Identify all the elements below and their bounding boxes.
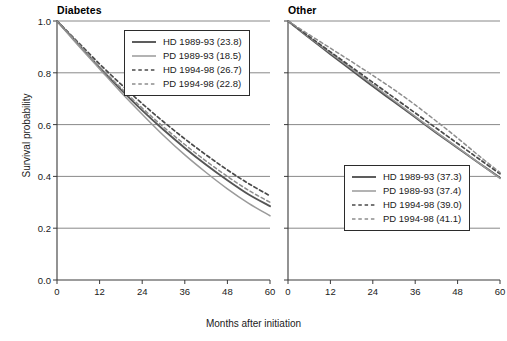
panel-title-diabetes: Diabetes — [57, 4, 102, 16]
x-tick-label: 48 — [222, 286, 233, 297]
legend-label: HD 1994-98 (26.7) — [163, 65, 242, 75]
x-tick-label: 12 — [94, 286, 105, 297]
x-tick-label: 60 — [265, 286, 276, 297]
legend-other: HD 1989-93 (37.3)PD 1989-93 (37.4)HD 199… — [344, 165, 470, 231]
legend-item: PD 1994-98 (22.8) — [131, 77, 242, 91]
legend-item: HD 1989-93 (37.3) — [351, 170, 462, 184]
x-tick-label: 0 — [54, 286, 59, 297]
legend-key-icon — [351, 186, 377, 196]
x-tick-label: 24 — [368, 286, 379, 297]
legend-label: PD 1994-98 (22.8) — [163, 79, 241, 89]
figure-root: Survival probability Months after initia… — [0, 0, 507, 341]
legend-key-icon — [351, 214, 377, 224]
y-tick-label: 1.0 — [38, 16, 51, 27]
y-axis-label: Survival probability — [21, 66, 32, 206]
legend-item: HD 1994-98 (39.0) — [351, 198, 462, 212]
x-tick-label: 36 — [410, 286, 421, 297]
x-tick-label: 0 — [285, 286, 290, 297]
legend-item: PD 1989-93 (18.5) — [131, 49, 242, 63]
plot-area-other — [288, 21, 500, 280]
x-tick-label: 24 — [137, 286, 148, 297]
legend-diabetes: HD 1989-93 (23.8)PD 1989-93 (18.5)HD 199… — [124, 30, 250, 96]
legend-item: PD 1994-98 (41.1) — [351, 212, 462, 226]
legend-label: HD 1989-93 (37.3) — [383, 172, 462, 182]
panel-title-other: Other — [288, 4, 317, 16]
x-axis-label: Months after initiation — [0, 318, 507, 329]
y-tick-label: 0.6 — [38, 119, 51, 130]
legend-label: HD 1994-98 (39.0) — [383, 200, 462, 210]
x-tick-label: 36 — [180, 286, 191, 297]
legend-key-icon — [131, 51, 157, 61]
y-tick-label: 0.8 — [38, 67, 51, 78]
legend-label: PD 1989-93 (18.5) — [163, 51, 241, 61]
legend-label: PD 1994-98 (41.1) — [383, 214, 461, 224]
panel-diabetes: Diabetes HD 1989-93 (23.8)PD 1989-93 (18… — [57, 21, 270, 280]
legend-key-icon — [131, 65, 157, 75]
y-tick-label: 0.0 — [38, 275, 51, 286]
legend-item: HD 1989-93 (23.8) — [131, 35, 242, 49]
legend-item: HD 1994-98 (26.7) — [131, 63, 242, 77]
series-line — [288, 21, 500, 174]
x-tick-label: 48 — [452, 286, 463, 297]
legend-key-icon — [351, 200, 377, 210]
y-tick-label: 0.2 — [38, 223, 51, 234]
legend-key-icon — [351, 172, 377, 182]
y-tick-label: 0.4 — [38, 171, 51, 182]
x-tick-label: 12 — [325, 286, 336, 297]
legend-label: HD 1989-93 (23.8) — [163, 37, 242, 47]
legend-key-icon — [131, 37, 157, 47]
panel-other: Other HD 1989-93 (37.3)PD 1989-93 (37.4)… — [288, 21, 500, 280]
legend-label: PD 1989-93 (37.4) — [383, 186, 461, 196]
legend-item: PD 1989-93 (37.4) — [351, 184, 462, 198]
x-tick-label: 60 — [495, 286, 506, 297]
legend-key-icon — [131, 79, 157, 89]
